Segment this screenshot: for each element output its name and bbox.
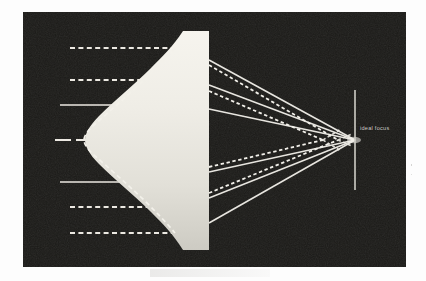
scan-smudge-right	[411, 160, 421, 186]
ideal-focus-label: ideal focus	[360, 125, 390, 131]
optics-diagram-panel: ideal focus	[23, 12, 406, 267]
scan-smudge-bottom	[150, 269, 270, 277]
focus-convergence-glow	[347, 137, 361, 143]
figure-root: ideal focus	[0, 0, 426, 281]
optics-diagram-svg	[23, 12, 406, 267]
